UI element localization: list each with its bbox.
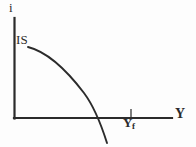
yf-base: Y	[123, 115, 132, 130]
x-axis-tick-label-yf: Yf	[123, 116, 135, 131]
is-curve-figure: i IS Y Yf	[0, 0, 196, 147]
yf-subscript: f	[132, 121, 135, 131]
is-curve-label: IS	[16, 33, 28, 46]
y-axis-label: i	[9, 1, 13, 14]
is-curve	[28, 47, 107, 143]
plot-canvas	[0, 0, 196, 147]
x-axis-label: Y	[175, 107, 185, 121]
